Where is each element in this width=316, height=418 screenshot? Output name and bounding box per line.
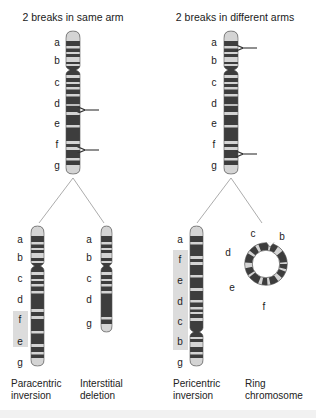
chromosome-top-left: [66, 31, 80, 174]
band-label-g: g: [54, 160, 60, 171]
split-lines-right: [197, 178, 262, 223]
band-label-f: f: [213, 139, 216, 150]
band-label-a: a: [54, 37, 60, 48]
caption-ring-chromosome: Ring chromosome: [245, 378, 303, 401]
band-label-b: b: [279, 231, 285, 242]
svg-text:inversion: inversion: [11, 390, 51, 401]
labels-top-left: a b c d e f g: [54, 37, 60, 171]
band-label-g: g: [177, 357, 183, 368]
svg-text:Interstitial: Interstitial: [80, 378, 123, 389]
band-label-e: e: [177, 275, 183, 286]
band-label-f: f: [263, 301, 266, 312]
labels-top-right: a b c d e f g: [211, 37, 217, 171]
breakpoint-arrows-left: [84, 110, 99, 150]
band-label-e: e: [229, 282, 235, 293]
band-label-c: c: [251, 228, 256, 239]
band-label-f: f: [56, 139, 59, 150]
labels-deletion: a b c d g: [86, 234, 92, 329]
band-label-d: d: [17, 294, 23, 305]
band-label-d: d: [177, 296, 183, 307]
svg-text:inversion: inversion: [173, 390, 213, 401]
band-label-g: g: [211, 160, 217, 171]
chromosome-aberration-diagram: 2 breaks in same arm 2 breaks in differe…: [0, 0, 316, 418]
band-label-b: b: [54, 55, 60, 66]
split-lines-left: [39, 178, 104, 223]
caption-pericentric-inversion: Pericentric inversion: [173, 378, 220, 401]
band-label-c: c: [212, 77, 217, 88]
title-different-arms: 2 breaks in different arms: [176, 11, 294, 23]
chromosome-pericentric-inversion: [190, 226, 203, 366]
band-label-a: a: [211, 37, 217, 48]
band-label-b: b: [177, 336, 183, 347]
svg-text:Paracentric: Paracentric: [11, 378, 62, 389]
title-same-arm: 2 breaks in same arm: [23, 11, 124, 23]
svg-text:chromosome: chromosome: [245, 390, 303, 401]
band-label-d: d: [225, 247, 231, 258]
band-label-a: a: [17, 234, 23, 245]
svg-text:deletion: deletion: [80, 390, 115, 401]
labels-paracentric: a b c d f e g: [17, 234, 23, 368]
band-label-e: e: [17, 336, 23, 347]
svg-text:Pericentric: Pericentric: [173, 378, 220, 389]
chromosome-top-right: [224, 31, 238, 174]
band-label-c: c: [87, 273, 92, 284]
chromosome-interstitial-deletion: [101, 226, 112, 332]
band-label-d: d: [86, 294, 92, 305]
band-label-f: f: [19, 314, 22, 325]
band-label-b: b: [17, 252, 23, 263]
band-label-c: c: [55, 77, 60, 88]
band-label-e: e: [54, 118, 60, 129]
caption-interstitial-deletion: Interstitial deletion: [80, 378, 123, 401]
band-label-d: d: [211, 98, 217, 109]
band-label-f: f: [179, 254, 182, 265]
caption-paracentric-inversion: Paracentric inversion: [11, 378, 62, 401]
band-label-a: a: [86, 234, 92, 245]
band-label-c: c: [18, 273, 23, 284]
band-label-b: b: [86, 252, 92, 263]
labels-ring: c b d e f: [225, 228, 285, 312]
band-label-c: c: [178, 316, 183, 327]
band-label-g: g: [86, 318, 92, 329]
band-label-d: d: [54, 98, 60, 109]
band-label-e: e: [211, 118, 217, 129]
band-label-a: a: [177, 234, 183, 245]
svg-text:Ring: Ring: [245, 378, 266, 389]
chromosome-paracentric-inversion: [31, 226, 44, 366]
breakpoint-arrows-right: [242, 48, 257, 154]
band-label-g: g: [17, 357, 23, 368]
band-label-b: b: [211, 55, 217, 66]
ring-chromosome: [245, 242, 288, 285]
